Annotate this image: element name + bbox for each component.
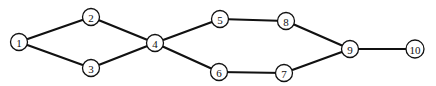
edge-4-5 <box>155 19 220 43</box>
edge-3-4 <box>91 43 155 68</box>
node-7: 7 <box>276 65 293 82</box>
node-2: 2 <box>83 9 100 26</box>
node-1: 1 <box>11 34 28 51</box>
node-8: 8 <box>278 13 295 30</box>
node-6: 6 <box>211 64 228 81</box>
edge-5-8 <box>220 19 286 21</box>
edge-2-4 <box>91 17 155 43</box>
edge-1-3 <box>19 42 91 68</box>
node-label: 4 <box>152 38 158 50</box>
edge-1-2 <box>19 17 91 42</box>
node-label: 2 <box>88 12 94 24</box>
node-label: 3 <box>88 63 94 75</box>
node-4: 4 <box>147 35 164 52</box>
network-diagram: 12345678910 <box>0 0 436 86</box>
node-9: 9 <box>342 41 359 58</box>
node-label: 5 <box>217 14 223 26</box>
edge-4-6 <box>155 43 219 72</box>
node-label: 10 <box>410 44 422 56</box>
node-label: 8 <box>283 16 289 28</box>
nodes-layer: 12345678910 <box>11 9 425 82</box>
node-5: 5 <box>212 11 229 28</box>
node-label: 7 <box>281 68 287 80</box>
edge-7-9 <box>284 49 350 73</box>
node-label: 1 <box>16 37 22 49</box>
edge-6-7 <box>219 72 284 73</box>
node-label: 6 <box>216 67 222 79</box>
edge-8-9 <box>286 21 350 49</box>
node-3: 3 <box>83 60 100 77</box>
node-10: 10 <box>406 40 424 58</box>
node-label: 9 <box>347 44 353 56</box>
